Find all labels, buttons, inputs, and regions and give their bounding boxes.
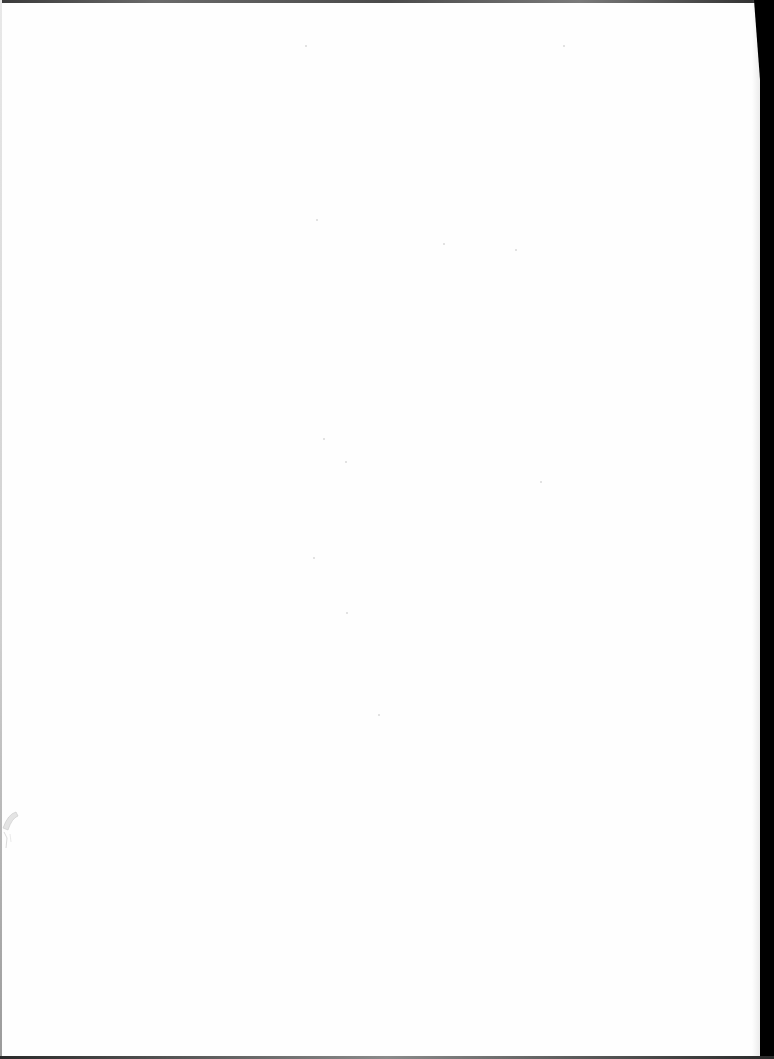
scan-speck — [443, 243, 445, 245]
scan-speck — [346, 612, 348, 614]
scan-speck — [316, 219, 318, 221]
scan-speck — [515, 249, 517, 251]
fold-mark-icon — [2, 808, 26, 852]
scan-speck — [313, 557, 315, 559]
scan-speck — [323, 438, 325, 440]
right-scan-border — [760, 0, 774, 1059]
scan-speck — [378, 714, 380, 716]
blank-page-area — [2, 3, 752, 1056]
scan-speck — [563, 45, 565, 47]
scan-speck — [345, 461, 347, 463]
right-page-shadow — [752, 0, 760, 1059]
scan-speck — [305, 45, 307, 47]
scan-speck — [540, 481, 542, 483]
scanned-page — [0, 0, 774, 1059]
